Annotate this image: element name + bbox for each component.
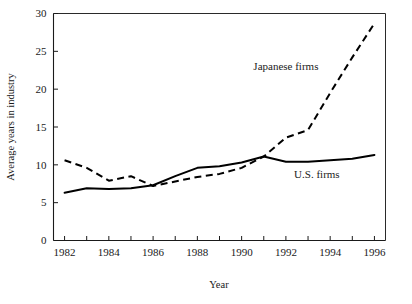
x-tick-label: 1986 (142, 246, 165, 258)
x-tick-label: 1994 (319, 246, 342, 258)
series-label-japanese-firms: Japanese firms (253, 60, 318, 72)
y-tick-label: 0 (41, 234, 47, 246)
y-tick-label: 25 (36, 45, 48, 57)
line-chart: 051015202530 198219841986198819901992199… (0, 0, 412, 304)
y-tick-label: 30 (36, 7, 48, 19)
y-tick-label: 10 (36, 159, 48, 171)
y-axis-title: Average years in industry (5, 73, 16, 181)
y-axis-ticks (54, 14, 59, 241)
y-tick-label: 20 (36, 83, 48, 95)
series-label-u-s-firms: U.S. firms (294, 168, 340, 180)
y-tick-label: 15 (36, 121, 48, 133)
x-tick-label: 1990 (231, 246, 254, 258)
x-tick-label: 1996 (363, 246, 386, 258)
x-tick-label: 1982 (54, 246, 76, 258)
x-axis-title: Year (209, 279, 229, 290)
series-layer (65, 23, 375, 192)
x-tick-label: 1984 (98, 246, 121, 258)
y-tick-label: 5 (41, 196, 47, 208)
y-axis-tick-labels: 051015202530 (36, 7, 48, 246)
plot-frame (54, 14, 386, 241)
series-line-japanese-firms (65, 23, 375, 186)
x-tick-label: 1988 (186, 246, 209, 258)
chart-page: 051015202530 198219841986198819901992199… (0, 0, 412, 304)
x-axis-tick-labels: 19821984198619881990199219941996 (54, 246, 386, 258)
x-axis-ticks (65, 236, 375, 241)
x-tick-label: 1992 (275, 246, 297, 258)
plot-border (54, 14, 386, 241)
